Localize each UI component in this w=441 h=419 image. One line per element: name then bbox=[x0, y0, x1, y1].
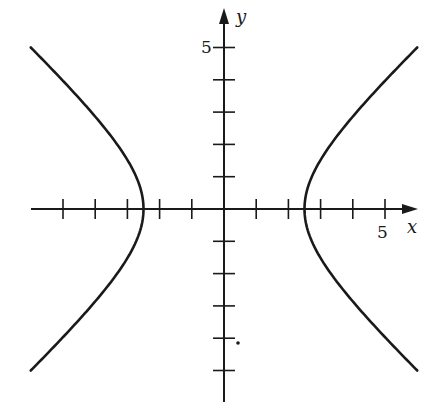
stray-dot bbox=[236, 341, 240, 345]
hyperbola-chart: x y 5 5 bbox=[0, 0, 441, 419]
x-axis-arrow-icon bbox=[402, 204, 418, 214]
y-axis-arrow-icon bbox=[219, 8, 229, 24]
y-axis-label: y bbox=[235, 6, 247, 27]
x-axis-label: x bbox=[407, 216, 417, 237]
x-tick-label-5: 5 bbox=[377, 222, 388, 242]
axes bbox=[31, 18, 404, 402]
y-tick-label-5: 5 bbox=[201, 37, 212, 57]
